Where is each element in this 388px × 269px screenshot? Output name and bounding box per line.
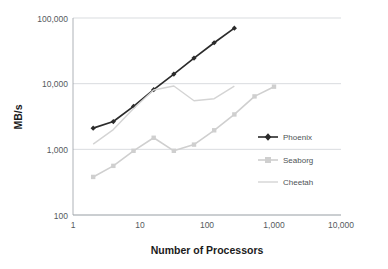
x-tick-label-100: 100 [200,220,214,230]
data-point-seaborg-32 [172,149,176,153]
x-tick-label-1: 1 [71,220,76,230]
data-point-seaborg-512 [252,94,256,98]
legend-label-cheetah: Cheetah [283,178,313,187]
x-axis-title: Number of Processors [151,244,264,256]
data-point-seaborg-1000 [272,84,276,88]
data-point-seaborg-256 [232,112,236,116]
chart-container: 100,000 10,000 1,000 100 1 10 100 1,000 … [0,0,388,269]
x-tick-label-10: 10 [135,220,145,230]
data-point-seaborg-16 [151,136,155,140]
chart-svg: 100,000 10,000 1,000 100 1 10 100 1,000 … [0,0,388,269]
x-tick-label-10000: 10,000 [328,220,354,230]
y-tick-label-100: 100 [54,211,68,221]
data-point-seaborg-128 [212,128,216,132]
legend-label-seaborg: Seaborg [283,156,313,165]
legend-marker-seaborg [265,157,271,163]
y-tick-label-1000: 1,000 [47,145,69,155]
x-tick-label-1000: 1,000 [263,220,285,230]
data-point-seaborg-2 [91,175,95,179]
y-tick-label-10000: 10,000 [42,79,68,89]
data-point-seaborg-4 [111,164,115,168]
y-axis-title: MB/s [12,104,24,129]
data-point-seaborg-64 [192,142,196,146]
legend-label-phoenix: Phoenix [283,133,312,142]
y-tick-label-100000: 100,000 [37,14,68,24]
data-point-seaborg-8 [131,149,135,153]
